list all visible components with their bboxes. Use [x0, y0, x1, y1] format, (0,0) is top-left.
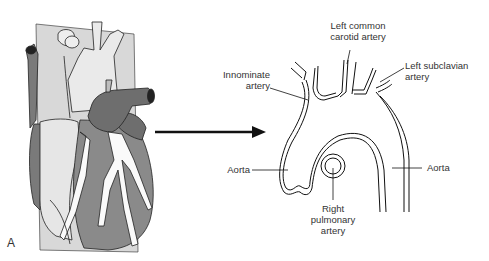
label-aorta-ascending: Aorta: [216, 164, 250, 175]
label-left-common-carotid: Left common carotid artery: [308, 20, 408, 42]
label-innominate-artery: Innominate artery: [206, 69, 270, 91]
panel-letter: A: [7, 236, 15, 250]
diagram-canvas: [0, 0, 489, 261]
label-left-subclavian-artery: Left subclavian artery: [405, 60, 489, 82]
label-aorta-descending: Aorta: [427, 162, 467, 173]
arrow: [155, 126, 266, 138]
heart-illustration: [26, 22, 155, 252]
aortic-arch-diagram: [280, 60, 409, 212]
label-right-pulmonary-artery: Right pulmonary artery: [298, 203, 368, 236]
superior-vena-cava: [26, 44, 38, 128]
